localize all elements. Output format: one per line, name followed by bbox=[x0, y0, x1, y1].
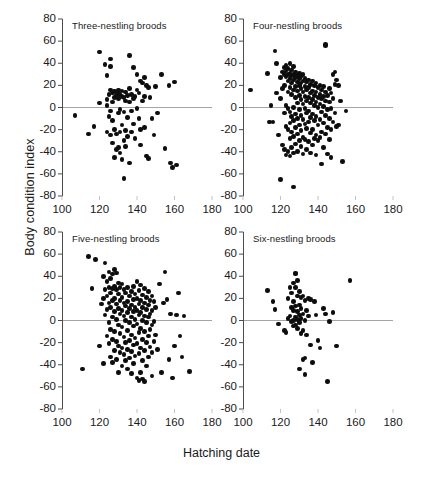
data-point bbox=[92, 124, 97, 129]
data-point bbox=[159, 72, 164, 77]
data-point bbox=[278, 96, 283, 101]
x-tick-label: 160 bbox=[336, 203, 376, 215]
data-point bbox=[129, 109, 134, 114]
data-point bbox=[142, 125, 147, 130]
y-tick-label: -20 bbox=[16, 336, 56, 348]
data-point bbox=[108, 57, 113, 62]
data-point bbox=[271, 120, 276, 125]
data-point bbox=[86, 132, 91, 137]
y-tick-label: 0 bbox=[16, 314, 56, 326]
data-point bbox=[276, 133, 281, 138]
data-point bbox=[333, 70, 338, 75]
data-point bbox=[319, 162, 324, 167]
x-tick-label: 100 bbox=[223, 203, 263, 215]
data-point bbox=[138, 370, 143, 375]
data-point bbox=[127, 356, 132, 361]
y-tick-label: -20 bbox=[197, 123, 237, 135]
data-point bbox=[327, 319, 332, 324]
data-point bbox=[142, 75, 147, 80]
data-point bbox=[146, 355, 151, 360]
data-point bbox=[142, 348, 147, 353]
data-point bbox=[129, 349, 134, 354]
data-point bbox=[116, 145, 121, 150]
x-axis-title: Hatching date bbox=[0, 446, 443, 460]
y-tick-label: 0 bbox=[16, 101, 56, 113]
data-point bbox=[295, 326, 300, 331]
x-tick-label: 180 bbox=[373, 203, 413, 215]
data-point bbox=[284, 330, 289, 335]
y-tick-label: -40 bbox=[197, 145, 237, 157]
y-tick-label: -80 bbox=[16, 189, 56, 201]
panel-six-nestling: -80-60-40-20020406080100120140160180Six-… bbox=[243, 232, 393, 409]
data-point bbox=[301, 152, 306, 157]
data-point bbox=[180, 355, 185, 360]
x-tick-label: 140 bbox=[117, 203, 157, 215]
data-point bbox=[299, 144, 304, 149]
data-point bbox=[144, 340, 149, 345]
data-point bbox=[108, 355, 113, 360]
data-point bbox=[308, 343, 313, 348]
x-tick-label: 120 bbox=[261, 203, 301, 215]
data-point bbox=[323, 42, 328, 47]
y-tick-label: 40 bbox=[16, 269, 56, 281]
data-point bbox=[110, 141, 115, 146]
data-point bbox=[110, 118, 115, 123]
data-point bbox=[165, 297, 170, 302]
y-tick-label: 80 bbox=[197, 225, 237, 237]
data-point bbox=[157, 282, 162, 287]
data-point bbox=[131, 65, 136, 70]
data-point bbox=[321, 84, 326, 89]
data-point bbox=[172, 80, 177, 85]
y-tick-label: -60 bbox=[197, 167, 237, 179]
data-point bbox=[120, 295, 125, 300]
data-point-layer bbox=[62, 232, 212, 409]
data-point bbox=[99, 302, 104, 307]
y-tick-label: 20 bbox=[197, 78, 237, 90]
data-point bbox=[133, 317, 138, 322]
data-point bbox=[329, 155, 334, 160]
data-point bbox=[150, 350, 155, 355]
data-point bbox=[278, 177, 283, 182]
data-point bbox=[282, 111, 287, 116]
y-tick-label: 40 bbox=[197, 56, 237, 68]
y-tick-label: -80 bbox=[16, 402, 56, 414]
y-tick-label: -40 bbox=[16, 358, 56, 370]
data-point bbox=[333, 111, 338, 116]
data-point bbox=[329, 91, 334, 96]
data-point bbox=[125, 328, 130, 333]
data-point bbox=[293, 272, 298, 277]
data-point bbox=[122, 176, 127, 181]
data-point bbox=[150, 374, 155, 379]
data-point bbox=[148, 95, 153, 100]
data-point bbox=[325, 379, 330, 384]
data-point bbox=[159, 370, 164, 375]
data-point bbox=[97, 101, 102, 106]
data-point bbox=[122, 335, 127, 340]
data-point bbox=[323, 312, 328, 317]
data-point bbox=[118, 151, 123, 156]
data-point bbox=[144, 307, 149, 312]
data-point bbox=[133, 136, 138, 141]
data-point bbox=[112, 329, 117, 334]
data-point bbox=[120, 346, 125, 351]
data-point bbox=[297, 320, 302, 325]
data-point bbox=[321, 306, 326, 311]
data-point bbox=[120, 325, 125, 330]
data-point bbox=[131, 122, 136, 127]
data-point bbox=[146, 85, 151, 90]
data-point bbox=[101, 361, 106, 366]
y-tick-label: -20 bbox=[16, 123, 56, 135]
y-tick-label: -40 bbox=[16, 145, 56, 157]
data-point bbox=[137, 116, 142, 121]
data-point bbox=[295, 149, 300, 154]
data-point bbox=[129, 130, 134, 135]
data-point bbox=[304, 308, 309, 313]
x-tick-label: 100 bbox=[42, 416, 82, 428]
y-tick-label: -80 bbox=[197, 402, 237, 414]
data-point bbox=[110, 100, 115, 105]
y-tick-label: -20 bbox=[197, 336, 237, 348]
data-point bbox=[152, 339, 157, 344]
data-point bbox=[80, 367, 85, 372]
data-point bbox=[105, 73, 110, 78]
data-point bbox=[274, 61, 279, 66]
